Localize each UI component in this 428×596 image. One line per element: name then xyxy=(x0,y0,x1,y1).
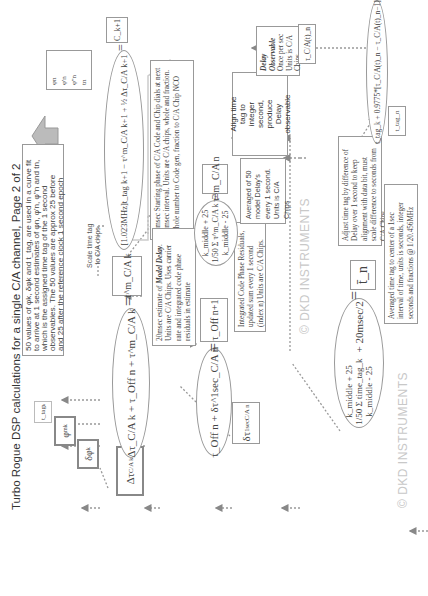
watermark-2: © DKD INSTRUMENTS xyxy=(396,372,410,508)
dtau-1sec-sub: C/A n xyxy=(243,405,250,421)
dphi-sub: k xyxy=(85,447,91,450)
model-delay-expr: Δτ_C/A k + τ_Off n + τ^m_C/A k xyxy=(125,308,137,457)
offset-equation: τ_Off n + δτ^1sec_C/A n xyxy=(196,348,232,456)
input-dphi-box: δφk xyxy=(77,439,99,469)
time-tag-lower: k_middle - 25 xyxy=(364,366,374,417)
t-tag-label: t_tag xyxy=(39,406,47,420)
delta-tau-sub: C/A k xyxy=(127,457,134,473)
avg-delay-summand: τ^m_C/A k xyxy=(211,204,220,240)
offset-expr: τ_Off n + δτ^1sec_C/A n xyxy=(208,347,220,458)
scale-time-label-1: Scale time tag xyxy=(86,224,94,268)
delay-note-line-1: Once per sec xyxy=(277,31,286,71)
scale-time-result-box: C_k+1 xyxy=(106,17,128,43)
delay-title-1: Delay xyxy=(260,54,268,71)
time-tag-result-box: t̄_n xyxy=(350,260,376,290)
offset-equals: = xyxy=(205,343,223,352)
avg-delay-lower: k_middle - 25 xyxy=(221,211,231,256)
curve-fit-outputs-box: φn φ'n φ''n tn xyxy=(46,50,92,90)
model-delay-result-box: τ^m_C/A k xyxy=(112,256,142,296)
diagram-canvas: Turbo Rogue DSP calculations for a singl… xyxy=(0,0,428,596)
time-tag-equation: k_middle + 25 1/50 Σ time_tag_k k_middle… xyxy=(334,298,384,428)
scale-time-label-2: to C/A chips xyxy=(94,224,102,268)
note-model-delay: 20msec estimate of Model Delay. Units ar… xyxy=(152,228,196,346)
dtau-1sec-sup: 1sec xyxy=(243,420,250,432)
tau-ca-box: τ_C/A(t)_n xyxy=(298,24,316,64)
scale-time-label: Scale time tag to C/A chips xyxy=(86,224,102,268)
final-time-tag-equation: t_tag_k + 0.9775*[τ_C/A(t)_n − τ_C/A(t)_… xyxy=(366,0,388,144)
delta-tau-label: Δτ xyxy=(124,473,136,485)
note-integrated-residuals: Integrated Code Phase Residuals, updated… xyxy=(234,222,266,332)
input-phi-box: φmk xyxy=(54,416,76,446)
avg-delay-result-box: τ̄^m_C/A n xyxy=(202,164,228,194)
time-tag-summand: time_tag_k xyxy=(354,358,364,399)
note-averaged-delay: Averaged of 50 model Delay's every 1 sec… xyxy=(240,158,286,224)
scale-time-equals: = xyxy=(114,44,129,51)
delay-note-line-2: Units is C/A xyxy=(286,31,295,71)
scale-time-equation: [1.023MHz]t_tag k+1 − τ^m_C/A k+1 + ½ Δτ… xyxy=(104,50,144,250)
align-line-4: second, xyxy=(256,100,265,128)
note-starting-phase: 20msec Starting phase of C/A Code and Ch… xyxy=(150,60,194,240)
offset-result-box: τ_Off n+1 xyxy=(200,298,228,342)
align-line-5: produce xyxy=(265,100,274,129)
scale-time-expr: [1.023MHz]t_tag k+1 − τ^m_C/A k+1 + ½ Δτ… xyxy=(119,55,129,246)
note-model-delay-em: Model Delay xyxy=(156,246,164,284)
curve-fit-line-5: and 25 after the reference clock 1 secon… xyxy=(57,149,65,351)
note-model-delay-pre: 20msec estimate of xyxy=(156,284,164,341)
time-tag-prefix: 1/50 xyxy=(354,409,364,425)
output-phi-dprime-n: φ''n xyxy=(69,55,79,85)
avg-delay-upper: k_middle + 25 xyxy=(201,210,211,257)
align-line-6: Delay xyxy=(274,104,283,124)
time-tag-plus: + 20msec/2 xyxy=(353,301,365,352)
phi-sub: k xyxy=(62,424,68,427)
phi-sup: m xyxy=(62,427,68,432)
output-t-n: tn xyxy=(79,55,89,85)
t-tag-sub: k xyxy=(41,404,46,406)
model-delay-equation: Δτ_C/A k + τ_Off n + τ^m_C/A k xyxy=(112,308,150,458)
input-dtau-1sec-box: δτ1secC/A n xyxy=(232,402,260,444)
note-adjust-time-tag: Adjust time tag by difference of Delay o… xyxy=(338,136,382,246)
note-averaged-time-tag: Averaged time tag to center of a 1sec in… xyxy=(384,184,418,324)
dtau-1sec-label: δτ xyxy=(240,432,252,442)
align-time-box: Align time tag to integer second, produc… xyxy=(232,72,288,156)
dphi-label: δφ xyxy=(83,450,94,460)
align-line-1: Align time xyxy=(229,96,238,131)
time-tag-equals: = xyxy=(346,291,364,300)
time-tag-upper: k_middle + 25 xyxy=(344,365,354,418)
input-t-tag-box: t_tagk xyxy=(34,401,52,423)
delay-observable-note: Delay Observable Once per sec Units is C… xyxy=(256,26,300,76)
avg-delay-prefix: 1/50 xyxy=(211,248,220,262)
output-phi-prime-n: φ'n xyxy=(59,55,69,85)
curve-fit-note: 50 values of φk, δφk and t_tag, are used… xyxy=(22,144,64,356)
t-tag-n-box: t_tag_n xyxy=(388,106,406,136)
delay-title-2: Observable xyxy=(269,38,277,71)
align-line-7: observable xyxy=(283,94,292,133)
phi-label: φ xyxy=(60,432,71,438)
output-phi-n: φn xyxy=(49,55,59,85)
final-expr: t_tag_k + 0.9775*[τ_C/A(t)_n − τ_C/A(t)_… xyxy=(373,0,382,144)
align-line-3: integer xyxy=(247,102,256,126)
watermark-1: © DKD INSTRUMENTS xyxy=(298,198,312,334)
align-line-2: tag to xyxy=(238,104,247,124)
average-delay-equation: k_middle + 25 1/50 Σ τ^m_C/A k k_middle … xyxy=(194,200,238,266)
